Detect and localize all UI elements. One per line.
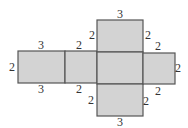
face-center bbox=[97, 52, 143, 84]
face-top bbox=[97, 20, 143, 52]
dimension-label: 3 bbox=[117, 115, 123, 128]
dimension-label: 2 bbox=[145, 28, 151, 42]
dimension-label: 2 bbox=[9, 60, 15, 74]
net-canvas: 32232222322223 bbox=[0, 0, 188, 128]
dimension-label: 3 bbox=[117, 7, 123, 21]
dimension-label: 2 bbox=[143, 94, 149, 108]
prism-net-diagram: 32232222322223 bbox=[0, 0, 188, 128]
dimension-label: 3 bbox=[38, 82, 44, 96]
face-middle-left bbox=[65, 51, 97, 83]
dimension-label: 2 bbox=[88, 93, 94, 107]
dimension-label: 2 bbox=[175, 61, 181, 75]
face-bottom bbox=[97, 84, 143, 116]
dimension-label: 2 bbox=[155, 39, 161, 53]
face-left bbox=[18, 51, 65, 83]
dimension-label: 2 bbox=[155, 84, 161, 98]
dimension-label: 2 bbox=[76, 82, 82, 96]
dimension-label: 3 bbox=[38, 38, 44, 52]
face-right bbox=[143, 53, 175, 84]
dimension-label: 2 bbox=[76, 38, 82, 52]
dimension-label: 2 bbox=[89, 28, 95, 42]
